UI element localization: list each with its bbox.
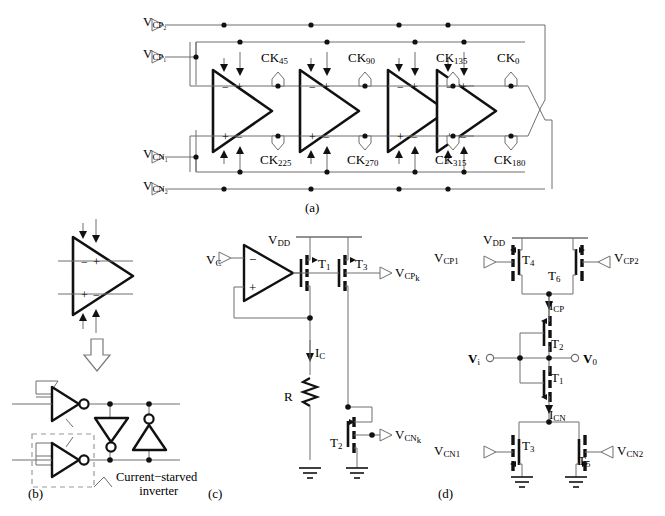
label-d-vo: V0 — [583, 351, 597, 367]
bubble-top-inverter — [79, 399, 88, 408]
label-d-vcp1: VCP1 — [434, 250, 459, 266]
label-c-r: R — [284, 389, 293, 405]
svg-text:+: + — [309, 130, 316, 144]
opamp-plus: + — [249, 280, 256, 295]
label-c-vc: VC — [206, 252, 221, 268]
label-d-vi: Vi — [468, 351, 480, 367]
current-starved-inverter-annotation: Current−starved inverter — [116, 470, 197, 499]
svg-text:−: − — [309, 80, 316, 94]
ground-symbols — [299, 468, 368, 478]
label-c-t1: T1 — [318, 256, 330, 272]
transistor-t1-d — [520, 358, 550, 422]
resistor-r — [303, 318, 317, 460]
vcp2-port-connector — [598, 256, 610, 268]
cell-sign-plus-b: + — [81, 288, 88, 302]
caption-d: (d) — [438, 486, 453, 502]
bubble-bottom-inverter — [79, 455, 88, 464]
svg-text:−: − — [460, 130, 467, 144]
label-c-vcnk: VCNk — [395, 427, 421, 445]
transistor-t6 — [549, 238, 598, 294]
figure-root: − + + − — [0, 0, 665, 516]
svg-text:−: − — [397, 80, 404, 94]
label-ck315: CK315 — [435, 152, 466, 168]
stage-1-sign-minus: − — [222, 80, 229, 94]
cell-sign-plus: + — [93, 255, 100, 269]
svg-text:+: + — [323, 80, 330, 94]
label-vcp2: VCP₂ — [143, 14, 166, 30]
caption-a: (a) — [305, 200, 319, 216]
vcn1-port-connector — [484, 446, 496, 458]
transistor-t2 — [348, 407, 380, 468]
vi-node-circle — [486, 354, 493, 361]
label-ck0: CK0 — [497, 50, 519, 66]
label-c-ic: IC — [315, 345, 325, 361]
vo-node-circle — [571, 354, 578, 361]
svg-text:+: + — [411, 80, 418, 94]
label-d-icn: ICN — [549, 407, 566, 423]
label-d-t5: T5 — [578, 453, 590, 469]
caption-b: (b) — [28, 486, 43, 502]
vcp1-port-connector — [484, 256, 496, 268]
label-c-t2: T2 — [330, 435, 342, 451]
svg-text:−: − — [411, 130, 418, 144]
label-vcp1: VCP₁ — [143, 46, 166, 62]
label-vcn1: VCN₁ — [143, 146, 168, 162]
label-d-t3: T3 — [522, 438, 534, 454]
stage-1-sign-minus-b: − — [236, 130, 243, 144]
transistor-t1 — [293, 237, 318, 318]
transform-arrow — [84, 339, 110, 371]
label-d-vcn1: VCN1 — [434, 443, 460, 459]
panel-a-schematic: − + + − — [0, 0, 665, 220]
svg-text:+: + — [460, 80, 467, 94]
label-ck270: CK270 — [347, 152, 378, 168]
svg-text:+: + — [397, 130, 404, 144]
label-c-t3: T3 — [355, 256, 367, 272]
label-d-icp: ICP — [549, 298, 564, 314]
label-d-t6: T6 — [548, 268, 560, 284]
label-ck225: CK225 — [260, 152, 291, 168]
svg-text:−: − — [323, 130, 330, 144]
label-d-vdd: VDD — [483, 232, 505, 248]
vcn2-port-connector — [601, 446, 613, 458]
label-d-vcp2: VCP2 — [614, 250, 639, 266]
label-c-vdd: VDD — [268, 232, 290, 248]
label-ck90: CK90 — [348, 50, 375, 66]
stage-1-sign-plus: + — [236, 80, 243, 94]
vcpk-port-connector — [380, 267, 392, 279]
label-vcn2: VCN₂ — [143, 178, 168, 194]
label-ck180: CK180 — [494, 152, 525, 168]
label-c-vcpk: VCPk — [395, 265, 420, 283]
label-d-t4: T4 — [522, 252, 534, 268]
stage-1-sign-plus-b: + — [222, 130, 229, 144]
vcnk-port-connector — [380, 429, 392, 441]
bubble-latch-up — [144, 414, 153, 423]
label-ck135: CK135 — [436, 50, 467, 66]
label-d-t2: T2 — [551, 336, 563, 352]
cell-sign-minus-b: − — [93, 288, 100, 302]
transistor-t2-d — [520, 294, 550, 358]
bubble-latch-down — [106, 442, 115, 451]
ground-symbols-d — [511, 477, 587, 487]
label-d-vcn2: VCN2 — [617, 443, 643, 459]
transistor-t3-d — [496, 435, 522, 477]
cell-sign-minus: − — [81, 255, 88, 269]
caption-c: (c) — [208, 486, 222, 502]
label-d-t1: T1 — [551, 370, 563, 386]
panel-b-cell-symbol: − + + − — [58, 219, 133, 333]
opamp-minus: − — [249, 252, 256, 267]
label-ck45: CK45 — [261, 50, 288, 66]
